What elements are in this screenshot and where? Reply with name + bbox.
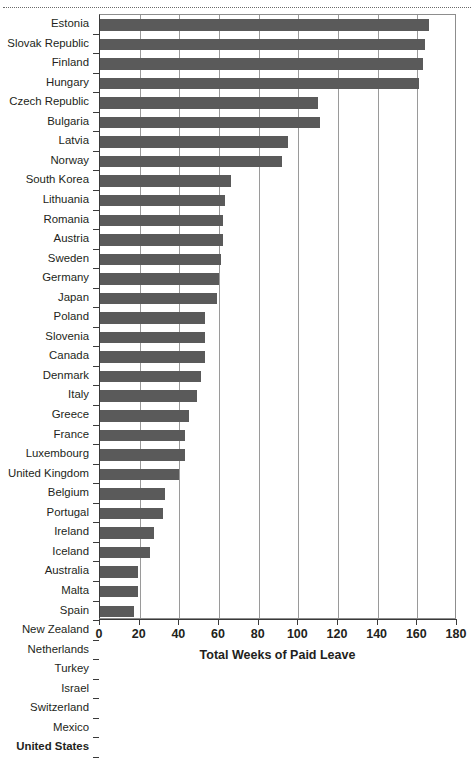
category-tick bbox=[93, 483, 99, 484]
category-label-sweden: Sweden bbox=[48, 249, 89, 269]
category-label-japan: Japan bbox=[58, 288, 89, 308]
bar-row bbox=[100, 171, 456, 191]
category-axis-labels: EstoniaSlovak RepublicFinlandHungaryCzec… bbox=[0, 14, 93, 619]
x-tick-label-120: 120 bbox=[317, 627, 357, 641]
category-label-germany: Germany bbox=[42, 268, 89, 288]
bar-row bbox=[100, 152, 456, 172]
bar-germany bbox=[100, 273, 219, 285]
bar-row bbox=[100, 113, 456, 133]
category-label-italy: Italy bbox=[68, 385, 89, 405]
category-label-israel: Israel bbox=[61, 679, 89, 699]
category-label-switzerland: Switzerland bbox=[30, 698, 89, 718]
bar-czech-republic bbox=[100, 97, 318, 109]
x-tick-40 bbox=[178, 619, 179, 625]
category-tick bbox=[93, 444, 99, 445]
bar-row bbox=[100, 289, 456, 309]
bar-row bbox=[100, 562, 456, 582]
category-label-canada: Canada bbox=[49, 346, 89, 366]
bar-row bbox=[100, 269, 456, 289]
bar-belgium bbox=[100, 488, 165, 500]
category-label-portugal: Portugal bbox=[47, 503, 89, 523]
category-label-ireland: Ireland bbox=[54, 522, 89, 542]
bar-portugal bbox=[100, 508, 163, 520]
category-tick bbox=[93, 503, 99, 504]
category-tick bbox=[93, 522, 99, 523]
bar-france bbox=[100, 430, 185, 442]
category-label-greece: Greece bbox=[52, 405, 89, 425]
bar-latvia bbox=[100, 136, 288, 148]
bar-row bbox=[100, 328, 456, 348]
x-tick-0 bbox=[99, 619, 100, 625]
bar-romania bbox=[100, 215, 223, 227]
category-label-finland: Finland bbox=[52, 53, 89, 73]
x-tick-label-20: 20 bbox=[119, 627, 159, 641]
category-tick bbox=[93, 464, 99, 465]
x-tick-label-160: 160 bbox=[396, 627, 436, 641]
bar-row bbox=[100, 93, 456, 113]
bar-south-korea bbox=[100, 175, 231, 187]
category-label-austria: Austria bbox=[54, 229, 89, 249]
bar-iceland bbox=[100, 547, 150, 559]
bar-italy bbox=[100, 390, 197, 402]
bar-japan bbox=[100, 293, 217, 305]
bar-lithuania bbox=[100, 195, 225, 207]
category-label-iceland: Iceland bbox=[52, 542, 89, 562]
x-tick-label-60: 60 bbox=[198, 627, 238, 641]
bar-poland bbox=[100, 312, 205, 324]
bar-hungary bbox=[100, 78, 419, 90]
category-label-hungary: Hungary bbox=[46, 73, 89, 93]
category-tick bbox=[93, 327, 99, 328]
bar-row bbox=[100, 250, 456, 270]
category-label-latvia: Latvia bbox=[59, 131, 89, 151]
category-label-poland: Poland bbox=[54, 307, 89, 327]
category-label-romania: Romania bbox=[43, 210, 89, 230]
bar-row bbox=[100, 523, 456, 543]
top-dotted-rule bbox=[3, 7, 471, 8]
category-tick bbox=[93, 366, 99, 367]
category-tick bbox=[93, 561, 99, 562]
category-tick bbox=[93, 210, 99, 211]
category-label-bulgaria: Bulgaria bbox=[47, 112, 89, 132]
category-tick bbox=[93, 170, 99, 171]
category-tick bbox=[93, 229, 99, 230]
bar-united-kingdom bbox=[100, 469, 179, 481]
bar-row bbox=[100, 465, 456, 485]
category-label-mexico: Mexico bbox=[53, 718, 89, 738]
category-tick bbox=[93, 112, 99, 113]
bar-canada bbox=[100, 351, 205, 363]
category-tick bbox=[93, 268, 99, 269]
category-label-luxembourg: Luxembourg bbox=[26, 444, 89, 464]
x-tick-120 bbox=[337, 619, 338, 625]
category-tick bbox=[93, 581, 99, 582]
bar-row bbox=[100, 386, 456, 406]
x-axis-line bbox=[99, 619, 456, 620]
x-tick-100 bbox=[297, 619, 298, 625]
category-tick bbox=[93, 190, 99, 191]
bar-row bbox=[100, 308, 456, 328]
bar-finland bbox=[100, 58, 423, 70]
bar-australia bbox=[100, 566, 138, 578]
bar-row bbox=[100, 543, 456, 563]
bar-norway bbox=[100, 156, 282, 168]
bar-row bbox=[100, 211, 456, 231]
category-tick bbox=[93, 73, 99, 74]
bar-austria bbox=[100, 234, 223, 246]
category-label-spain: Spain bbox=[60, 601, 89, 621]
category-label-malta: Malta bbox=[61, 581, 89, 601]
bar-row bbox=[100, 54, 456, 74]
bar-ireland bbox=[100, 527, 154, 539]
x-tick-label-40: 40 bbox=[158, 627, 198, 641]
category-label-norway: Norway bbox=[50, 151, 89, 171]
category-tick bbox=[93, 542, 99, 543]
bar-row bbox=[100, 582, 456, 602]
bar-row bbox=[100, 74, 456, 94]
bar-row bbox=[100, 132, 456, 152]
x-tick-20 bbox=[139, 619, 140, 625]
bar-sweden bbox=[100, 254, 221, 266]
x-tick-label-140: 140 bbox=[357, 627, 397, 641]
category-tick bbox=[93, 679, 99, 680]
category-tick bbox=[93, 405, 99, 406]
category-label-united-states: United States bbox=[16, 737, 89, 757]
category-tick bbox=[93, 385, 99, 386]
category-tick bbox=[93, 737, 99, 738]
